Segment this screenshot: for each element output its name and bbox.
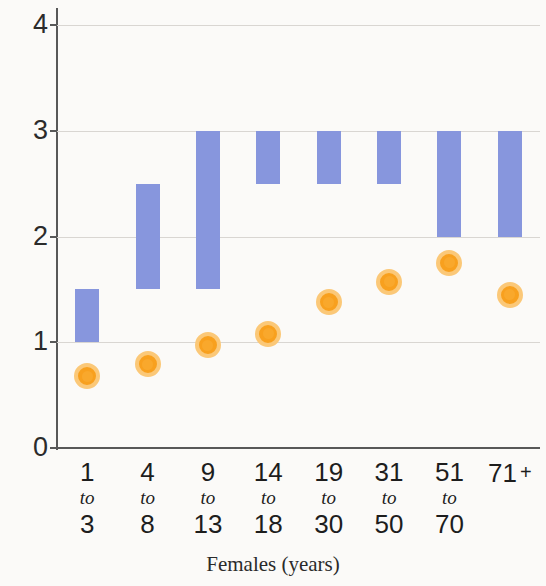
category-plus-sign: + [517,461,532,483]
data-point-marker-core [323,297,334,308]
range-bar [136,184,160,290]
data-point-marker [135,351,161,377]
data-point-marker-core [263,328,274,339]
data-point-marker [255,321,281,347]
data-point-marker-core [82,371,93,382]
x-axis-title: Females (years) [0,552,546,577]
range-bar [75,289,99,342]
range-bar [317,131,341,184]
data-point-marker [436,250,462,276]
y-axis-tick-label: 2 [4,223,48,250]
gridline-2 [56,237,540,238]
range-bar [256,131,280,184]
data-point-marker-core [142,359,153,370]
data-point-marker [74,363,100,389]
y-axis-tick-label: 4 [4,11,48,38]
y-tick-2 [50,236,57,238]
data-point-marker [316,289,342,315]
data-point-marker-core [384,276,395,287]
gridline-1 [56,342,540,343]
data-point-marker-core [504,289,515,300]
range-bar [196,131,220,290]
y-tick-3 [50,130,57,132]
data-point-marker-core [202,340,213,351]
gridline-4 [56,25,540,26]
y-tick-0 [50,447,57,449]
gridline-3 [56,131,540,132]
x-axis-category-label: 71+ [471,458,546,487]
data-point-marker-core [444,257,455,268]
y-axis-tick-label: 1 [4,328,48,355]
y-tick-1 [50,341,57,343]
category-to-word: to [410,486,488,510]
category-range-start: 71+ [471,458,546,487]
y-axis-labels: 01234 [0,0,48,586]
chart-container: 01234 Females (years) 1to34to89to1314to1… [0,0,546,586]
y-tick-4 [50,24,57,26]
range-bar [498,131,522,237]
range-bar [377,131,401,184]
y-axis-tick-label: 0 [4,434,48,461]
category-range-end: 70 [410,510,488,538]
range-bar [437,131,461,237]
y-axis-tick-label: 3 [4,117,48,144]
plot-area [56,8,540,448]
data-point-marker [376,269,402,295]
data-point-marker [497,282,523,308]
data-point-marker [195,332,221,358]
